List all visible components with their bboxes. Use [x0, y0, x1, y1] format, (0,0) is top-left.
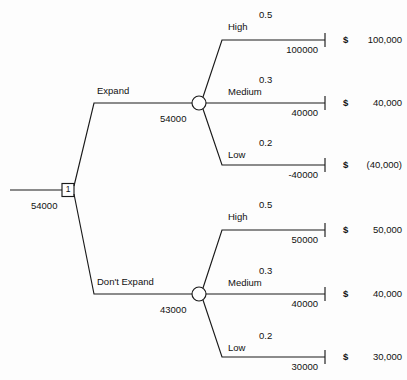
money-value-expand-high: 100,000 — [332, 34, 402, 45]
branch-label-dont-expand: Don't Expand — [97, 277, 154, 287]
state-label-noexpand-low: Low — [228, 343, 245, 353]
state-label-expand-medium: Medium — [228, 87, 262, 97]
chance-node-expand-circle — [192, 96, 206, 110]
probability-expand-low: 0.2 — [259, 137, 272, 148]
payoff-noexpand-medium: 40000 — [258, 298, 318, 309]
payoff-expand-high: 100000 — [258, 44, 318, 55]
payoff-noexpand-high: 50000 — [258, 234, 318, 245]
branch-label-expand: Expand — [97, 86, 129, 96]
decision-tree-diagram: 1 54000 Expand 54000 0.5 High 100000 $ 1… — [0, 0, 407, 380]
probability-noexpand-high: 0.5 — [259, 199, 272, 210]
decision-node-label: 1 — [62, 185, 74, 194]
state-label-noexpand-high: High — [228, 212, 248, 222]
probability-expand-medium: 0.3 — [259, 74, 272, 85]
money-value-noexpand-medium: 40,000 — [332, 288, 402, 299]
money-value-expand-medium: 40,000 — [332, 97, 402, 108]
payoff-expand-medium: 40000 — [258, 107, 318, 118]
probability-noexpand-low: 0.2 — [259, 330, 272, 341]
money-value-noexpand-high: 50,000 — [332, 224, 402, 235]
state-label-noexpand-medium: Medium — [228, 278, 262, 288]
chance-node-dont-expand-circle — [192, 287, 206, 301]
money-value-expand-low: (40,000) — [332, 159, 402, 170]
state-label-expand-low: Low — [228, 150, 245, 160]
payoff-noexpand-low: 30000 — [258, 361, 318, 372]
payoff-expand-low: -40000 — [258, 169, 318, 180]
probability-noexpand-medium: 0.3 — [259, 265, 272, 276]
state-label-expand-high: High — [228, 22, 248, 32]
chance-node-value-dont-expand: 43000 — [160, 304, 186, 315]
money-value-noexpand-low: 30,000 — [332, 351, 402, 362]
chance-node-value-expand: 54000 — [160, 113, 186, 124]
root-expected-value: 54000 — [31, 200, 57, 211]
probability-expand-high: 0.5 — [259, 9, 272, 20]
